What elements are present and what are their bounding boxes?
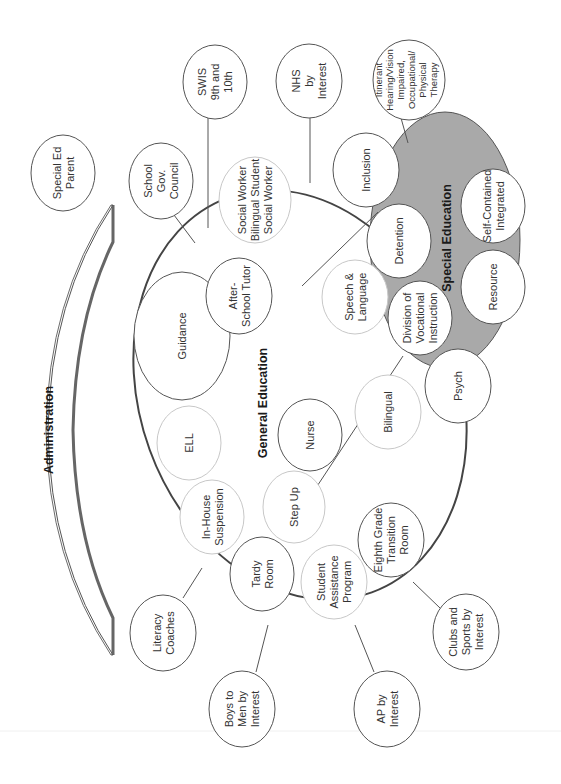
node-psych[interactable]: Psych <box>425 349 491 423</box>
node-student-assistance[interactable]: StudentAssistanceProgram <box>301 545 367 619</box>
node-step-up-label: Step Up <box>288 487 300 527</box>
node-ell-label: ELL <box>183 433 195 453</box>
node-bilingual-label: Bilingual <box>382 391 394 433</box>
node-swis[interactable]: SWIS9th and10th <box>183 45 247 119</box>
special-education-label: Special Education <box>440 184 454 292</box>
node-special-ed-parent[interactable]: Special EdParent <box>31 135 95 211</box>
node-clubs-sports-label: Clubs andSports byInterest <box>447 607 485 657</box>
node-inclusion-label: Inclusion <box>360 148 372 191</box>
node-literacy-coaches[interactable]: LiteracyCoaches <box>130 595 196 671</box>
node-social-worker[interactable]: Social WorkerBilingual StudentSocial Wor… <box>219 157 291 243</box>
node-speech-language[interactable]: Speech &Language <box>322 260 388 334</box>
node-school-gov-council[interactable]: SchoolGov.Council <box>129 143 193 219</box>
node-psych-label: Psych <box>452 371 464 401</box>
node-detention-label: Detention <box>393 217 405 264</box>
node-boys-to-men[interactable]: Boys toMen byInterest <box>209 671 275 747</box>
node-ap-by-interest-label: AP byInterest <box>375 691 400 728</box>
administration-label: Administration <box>42 386 56 474</box>
node-guidance-label: Guidance <box>176 312 188 359</box>
administration-bracket: Administration <box>42 205 113 655</box>
node-in-house-suspension[interactable]: In-HouseSuspension <box>180 480 244 554</box>
node-resource[interactable]: Resource <box>461 250 525 324</box>
node-student-assistance-label: StudentAssistanceProgram <box>315 555 353 608</box>
node-eighth-grade[interactable]: Eighth GradeTransitionRoom <box>358 503 424 577</box>
org-diagram: Administration Special EdParent SchoolGo… <box>0 0 561 784</box>
node-literacy-coaches-label: LiteracyCoaches <box>151 611 176 655</box>
general-education-label: General Education <box>256 348 270 458</box>
node-in-house-suspension-label: In-HouseSuspension <box>200 488 225 546</box>
node-after-school-tutor[interactable]: After-School Tutor <box>206 258 272 334</box>
node-tardy-room[interactable]: TardyRoom <box>230 537 294 611</box>
node-social-worker-label: Social WorkerBilingual StudentSocial Wor… <box>236 159 274 242</box>
node-resource-label: Resource <box>487 263 499 310</box>
node-clubs-sports[interactable]: Clubs andSports byInterest <box>433 594 499 670</box>
node-nurse-label: Nurse <box>304 420 316 449</box>
node-inclusion[interactable]: Inclusion <box>333 133 399 207</box>
node-detention[interactable]: Detention <box>367 204 431 278</box>
node-step-up[interactable]: Step Up <box>263 471 325 543</box>
node-nurse[interactable]: Nurse <box>278 399 342 471</box>
node-division-vocational-label: Division ofVocationalInstruction <box>401 292 439 344</box>
node-nhs[interactable]: NHSbyInterest <box>276 44 342 118</box>
node-self-contained[interactable]: Self-ContainedIntegrated <box>461 169 525 243</box>
node-itinerant[interactable]: ItinerantHearing/VisionImpaired,Occupati… <box>373 40 445 120</box>
node-bilingual[interactable]: Bilingual <box>355 375 421 449</box>
node-boys-to-men-label: Boys toMen byInterest <box>223 690 261 727</box>
node-tardy-room-label: TardyRoom <box>250 559 275 588</box>
node-speech-language-label: Speech &Language <box>343 272 368 321</box>
node-ap-by-interest[interactable]: AP byInterest <box>354 671 420 747</box>
node-ell[interactable]: ELL <box>157 406 221 480</box>
